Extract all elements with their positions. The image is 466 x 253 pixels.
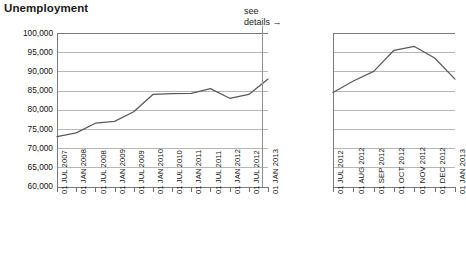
- see-details-annotation: see details →: [244, 6, 282, 27]
- data-series-line: [333, 46, 455, 92]
- overview-chart: 100,00095,00090,00085,00080,00075,00070,…: [0, 0, 300, 253]
- detail-marker-line: [262, 26, 263, 187]
- data-series-line: [57, 79, 268, 137]
- annotation-line-1: see: [244, 6, 282, 17]
- annotation-line-2: details →: [244, 17, 282, 28]
- series-svg: [325, 0, 466, 253]
- series-svg: [0, 0, 300, 253]
- detail-chart: 01 JUL 201201 AUG 201201 SEP 201201 OCT …: [325, 0, 466, 253]
